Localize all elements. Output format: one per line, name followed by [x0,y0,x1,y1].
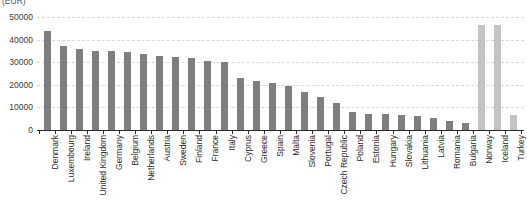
x-tick [361,130,377,134]
bar[interactable] [398,115,405,130]
x-tick [168,130,184,134]
x-label-slot: Czech Republic [329,135,345,208]
bar[interactable] [365,114,372,130]
x-label-slot: Italy [216,135,232,208]
x-tick [184,130,200,134]
bar-slot [184,17,200,130]
bar-slot [457,17,473,130]
category-label: Turkey [517,135,526,161]
x-tick [441,130,457,134]
bar-slot [425,17,441,130]
x-label-slot: Netherlands [136,135,152,208]
bar-slot [216,17,232,130]
bar[interactable] [76,49,83,130]
bar[interactable] [172,57,179,130]
y-axis-unit-label: (EUR) [2,0,26,6]
bar[interactable] [414,116,421,130]
x-tick [313,130,329,134]
x-label-slot: Iceland [490,135,506,208]
x-tick [297,130,313,134]
x-label-slot: Cyprus [232,135,248,208]
bar[interactable] [156,56,163,130]
x-label-slot: Malta [280,135,296,208]
bar-slot [248,17,264,130]
x-tick [200,130,216,134]
bar[interactable] [478,25,485,130]
bar[interactable] [124,52,131,130]
bar-slot [393,17,409,130]
bar[interactable] [92,51,99,130]
bar-slot [103,17,119,130]
bar-slot [377,17,393,130]
bar[interactable] [44,31,51,130]
x-label-slot: United Kingdom [87,135,103,208]
bar-slot [200,17,216,130]
x-label-slot: Latvia [425,135,441,208]
plot-area [37,17,524,130]
bar-slot [506,17,522,130]
y-tick-label: 50000 [9,12,33,22]
x-label-slot: Poland [345,135,361,208]
bar[interactable] [494,25,501,130]
x-tick [393,130,409,134]
x-tick [136,130,152,134]
bar[interactable] [446,121,453,130]
bar-slot [409,17,425,130]
x-label-slot: Ireland [71,135,87,208]
x-tick [248,130,264,134]
x-label-slot: Greece [248,135,264,208]
bar[interactable] [108,51,115,130]
bar[interactable] [510,115,517,130]
bar[interactable] [301,92,308,130]
x-label-slot: Slovenia [297,135,313,208]
bar[interactable] [237,78,244,130]
x-label-slot: Finland [184,135,200,208]
x-tick [506,130,522,134]
x-tick [87,130,103,134]
x-tick [216,130,232,134]
x-label-slot: Sweden [168,135,184,208]
x-tick [474,130,490,134]
bar[interactable] [269,83,276,130]
x-tick [55,130,71,134]
bar-slot [119,17,135,130]
bar[interactable] [285,86,292,130]
x-tick [457,130,473,134]
bar[interactable] [60,46,67,130]
x-label-slot: Lithuania [409,135,425,208]
x-tick [232,130,248,134]
x-axis-ticks [37,130,524,134]
x-label-slot: Luxembourg [55,135,71,208]
bar-slot [55,17,71,130]
x-tick [280,130,296,134]
x-label-slot: Slovakia [393,135,409,208]
x-tick [409,130,425,134]
bar[interactable] [140,54,147,130]
x-label-slot: France [200,135,216,208]
bar[interactable] [430,118,437,130]
bar[interactable] [462,123,469,130]
x-tick [345,130,361,134]
bar-slot [441,17,457,130]
bar[interactable] [349,112,356,130]
bar[interactable] [221,62,228,130]
bar[interactable] [333,103,340,130]
x-tick [329,130,345,134]
x-label-slot: Hungary [377,135,393,208]
bar[interactable] [253,81,260,130]
bar[interactable] [317,97,324,130]
bar[interactable] [188,58,195,130]
x-label-slot: Estonia [361,135,377,208]
bar-slot [345,17,361,130]
bar-slot [474,17,490,130]
x-tick [119,130,135,134]
bar[interactable] [382,114,389,130]
x-label-slot: Germany [103,135,119,208]
bar[interactable] [204,61,211,130]
bar-slot [232,17,248,130]
x-label-slot: Belgium [119,135,135,208]
x-tick [71,130,87,134]
bar-slot [490,17,506,130]
bar-slot [87,17,103,130]
x-label-slot: Romania [441,135,457,208]
